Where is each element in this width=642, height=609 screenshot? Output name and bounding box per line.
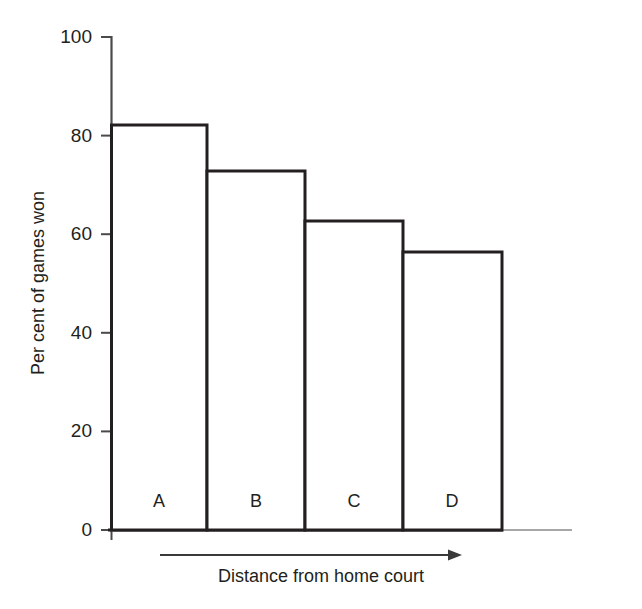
bar-label-c: C <box>348 491 361 512</box>
y-tick-label-0: 0 <box>40 519 92 541</box>
x-direction-arrow-icon <box>160 550 462 561</box>
y-tick-label-80: 80 <box>40 125 92 147</box>
bar-b[interactable] <box>207 171 305 530</box>
bar-label-a: A <box>153 491 165 512</box>
bar-label-b: B <box>250 491 262 512</box>
bar-c[interactable] <box>305 221 403 530</box>
y-tick-label-100: 100 <box>40 26 92 48</box>
bar-a[interactable] <box>112 125 208 530</box>
y-axis-title: Per cent of games won <box>28 191 49 375</box>
x-axis-title: Distance from home court <box>0 566 642 587</box>
bar-label-d: D <box>446 491 459 512</box>
bar-chart: 100 80 60 40 20 0 A B C D Per cent of ga… <box>0 0 642 609</box>
bar-d[interactable] <box>403 252 502 530</box>
y-tick-label-20: 20 <box>40 420 92 442</box>
chart-canvas <box>0 0 642 609</box>
y-axis-ticks <box>101 37 111 530</box>
